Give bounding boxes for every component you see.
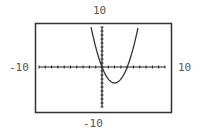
graph-window — [0, 0, 201, 134]
function-curve — [91, 27, 138, 83]
